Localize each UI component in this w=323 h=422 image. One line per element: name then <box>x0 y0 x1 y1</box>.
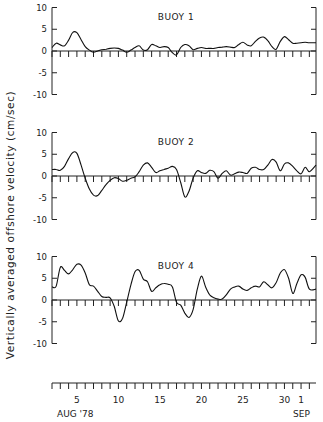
y-tick-label: 10 <box>36 128 47 138</box>
y-tick-label: -10 <box>33 215 47 225</box>
velocity-series-line <box>52 152 316 197</box>
y-tick-label: -5 <box>39 193 47 203</box>
y-tick-label: 5 <box>42 149 47 159</box>
y-tick-label: 10 <box>36 3 47 13</box>
x-tick-label: 20 <box>196 395 208 405</box>
y-tick-label: 5 <box>42 273 47 283</box>
y-tick-label: -5 <box>39 68 47 78</box>
y-tick-label: 0 <box>42 46 47 56</box>
y-tick-label: 5 <box>42 24 47 34</box>
y-tick-label: 0 <box>42 171 47 181</box>
x-tick-label: 10 <box>113 395 125 405</box>
y-tick-label: -10 <box>33 339 47 349</box>
y-axis-label: Vertically averaged offshore velocity (c… <box>4 91 16 359</box>
y-tick-label: 10 <box>36 252 47 262</box>
panels: 1050-5-10BUOY 11050-5-10BUOY 21050-5-10B… <box>33 3 316 349</box>
y-tick-label: -5 <box>39 317 47 327</box>
panel-title: BUOY 1 <box>158 12 194 22</box>
panel-buoy-4: 1050-5-10BUOY 4 <box>33 252 316 349</box>
x-tick-label: 25 <box>237 395 248 405</box>
month-label-sep: SEP <box>293 409 310 419</box>
y-tick-label: -10 <box>33 90 47 100</box>
x-tick-label: 1 <box>298 395 304 405</box>
velocity-series-line <box>52 264 316 322</box>
x-tick-label: 5 <box>74 395 80 405</box>
x-tick-label: 30 <box>279 395 291 405</box>
x-tick-label: 15 <box>154 395 165 405</box>
y-tick-label: 0 <box>42 295 47 305</box>
month-label-aug: AUG '78 <box>57 409 94 419</box>
date-axis: 510152025301 <box>52 383 316 405</box>
panel-buoy-1: 1050-5-10BUOY 1 <box>33 3 316 100</box>
panel-title: BUOY 2 <box>158 137 194 147</box>
panel-buoy-2: 1050-5-10BUOY 2 <box>33 128 316 225</box>
buoy-velocity-figure: Vertically averaged offshore velocity (c… <box>0 0 323 422</box>
panel-title: BUOY 4 <box>158 261 194 271</box>
